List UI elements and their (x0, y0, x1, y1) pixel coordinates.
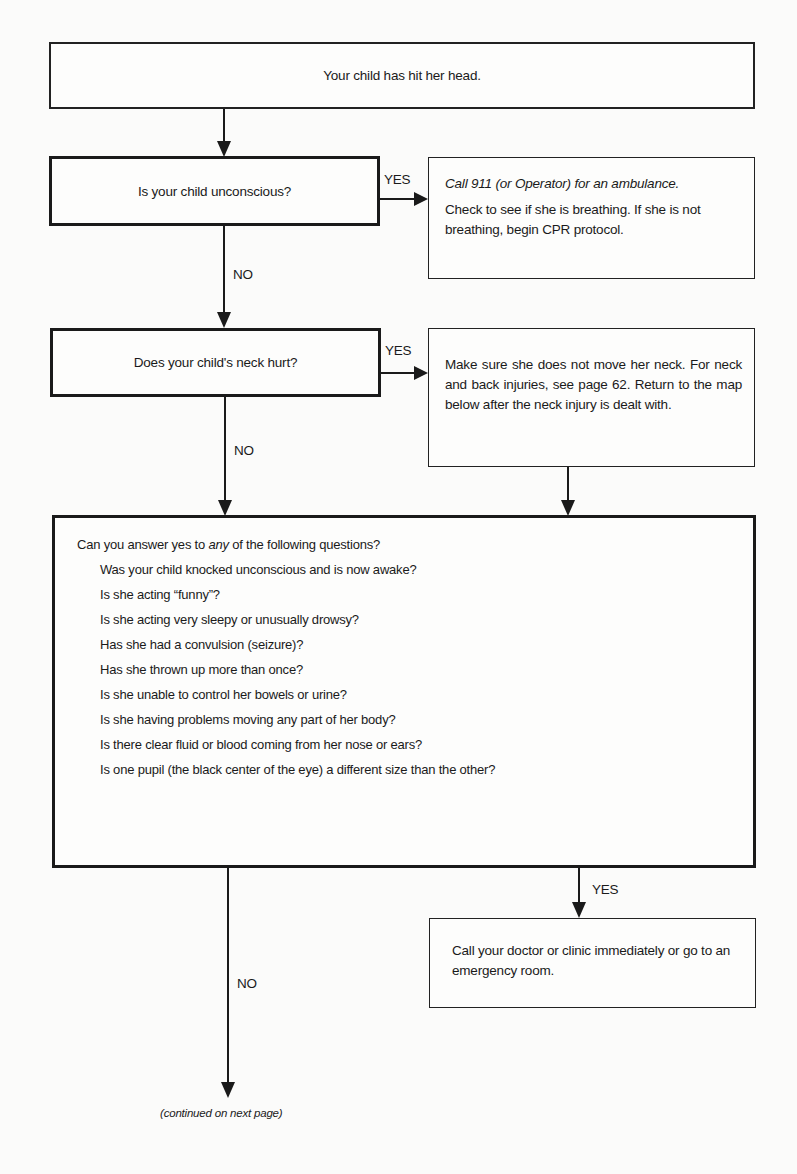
symptom-item: Is she having problems moving any part o… (100, 707, 753, 732)
question-unconscious-box: Is your child unconscious? (49, 156, 380, 226)
question-unconscious-text: Is your child unconscious? (138, 184, 291, 199)
arrow-down-icon (218, 500, 232, 516)
yes-label: YES (592, 882, 618, 897)
symptoms-question-box: Can you answer yes to any of the followi… (52, 515, 756, 868)
symptom-item: Was your child knocked unconscious and i… (100, 557, 753, 582)
symptom-item: Is there clear fluid or blood coming fro… (100, 732, 753, 757)
symptom-item: Has she had a convulsion (seizure)? (100, 632, 753, 657)
call-911-text: Call 911 (or Operator) for an ambulance. (445, 174, 742, 194)
connector-q1-yes (380, 198, 416, 200)
emergency-action-text: Call your doctor or clinic immediately o… (452, 941, 743, 981)
question-neck-text: Does your child's neck hurt? (134, 355, 298, 370)
start-text: Your child has hit her head. (323, 68, 481, 83)
question-neck-box: Does your child's neck hurt? (50, 328, 381, 397)
no-label: NO (237, 976, 257, 991)
symptom-item: Is one pupil (the black center of the ey… (100, 757, 753, 782)
connector-q1-no (223, 226, 225, 314)
symptoms-intro: Can you answer yes to any of the followi… (77, 532, 753, 557)
intro-emphasis: any (208, 537, 228, 552)
arrow-right-icon (414, 366, 428, 380)
no-label: NO (234, 443, 254, 458)
symptom-item: Is she unable to control her bowels or u… (100, 682, 753, 707)
arrow-right-icon (414, 192, 428, 206)
arrow-down-icon (221, 1082, 235, 1098)
start-box: Your child has hit her head. (49, 42, 755, 109)
no-label: NO (233, 267, 253, 282)
yes-label: YES (384, 172, 410, 187)
check-breathing-text: Check to see if she is breathing. If she… (445, 200, 742, 240)
connector-q3-yes (578, 868, 580, 904)
neck-action-box: Make sure she does not move her neck. Fo… (428, 328, 755, 467)
symptom-item: Has she thrown up more than once? (100, 657, 753, 682)
connector-q2-no (224, 397, 226, 501)
intro-prefix: Can you answer yes to (77, 537, 208, 552)
neck-action-text: Make sure she does not move her neck. Fo… (445, 355, 742, 415)
symptoms-list: Was your child knocked unconscious and i… (77, 557, 753, 782)
arrow-down-icon (217, 312, 231, 328)
continued-caption: (continued on next page) (160, 1107, 282, 1119)
connector-q2-yes (381, 372, 417, 374)
connector-start-q1 (223, 109, 225, 143)
connector-neck-return (567, 467, 569, 501)
emergency-action-box: Call your doctor or clinic immediately o… (429, 918, 756, 1008)
arrow-down-icon (561, 500, 575, 516)
symptom-item: Is she acting very sleepy or unusually d… (100, 607, 753, 632)
intro-suffix: of the following questions? (229, 537, 380, 552)
yes-label: YES (385, 343, 411, 358)
arrow-down-icon (217, 141, 231, 157)
connector-q3-no (227, 868, 229, 1084)
unconscious-action-box: Call 911 (or Operator) for an ambulance.… (428, 157, 755, 279)
symptom-item: Is she acting “funny”? (100, 582, 753, 607)
arrow-down-icon (572, 902, 586, 918)
